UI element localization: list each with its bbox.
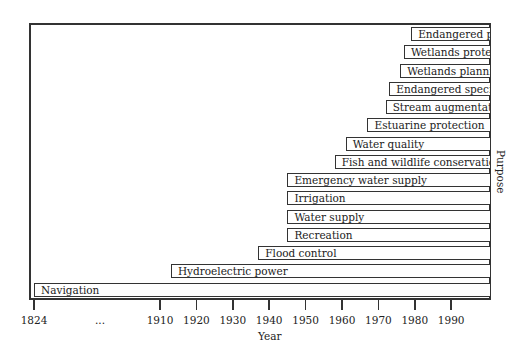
x-tick — [159, 300, 161, 310]
bar-endangered-species: Endangered species — [389, 82, 490, 96]
x-tick — [414, 300, 416, 310]
bar-wetlands-protect: Wetlands protect — [404, 45, 490, 59]
x-tick — [378, 300, 380, 310]
x-tick-label: 1824 — [21, 314, 48, 326]
bar-hydroelectric-power: Hydroelectric power — [171, 264, 490, 278]
x-tick-label: 1950 — [292, 314, 319, 326]
bar-fish-and-wildlife-conservation: Fish and wildlife conservation — [335, 155, 490, 169]
bar-stream-augmentation: Stream augmentation — [386, 100, 490, 114]
bar-endangered-plants: Endangered plants — [411, 27, 490, 41]
x-tick-label: 1990 — [438, 314, 465, 326]
x-tick — [33, 300, 35, 310]
bar-water-supply: Water supply — [287, 210, 490, 224]
x-tick — [268, 300, 270, 310]
y-axis-label: Purpose — [495, 150, 507, 194]
bar-recreation: Recreation — [287, 228, 490, 242]
x-tick-label: 1970 — [365, 314, 392, 326]
bar-navigation: Navigation — [34, 283, 490, 297]
x-tick — [450, 300, 452, 310]
x-tick — [232, 300, 234, 310]
bar-wetlands-planning: Wetlands planning — [400, 64, 490, 78]
bar-water-quality: Water quality — [346, 137, 490, 151]
bar-irrigation: Irrigation — [287, 191, 490, 205]
bar-estuarine-protection: Estuarine protection — [367, 118, 490, 132]
x-tick-label: 1910 — [147, 314, 174, 326]
x-tick — [305, 300, 307, 310]
x-tick-label: 1920 — [183, 314, 210, 326]
x-tick — [341, 300, 343, 310]
x-tick — [196, 300, 198, 310]
x-tick-label: 1930 — [219, 314, 246, 326]
x-tick-label: 1960 — [329, 314, 356, 326]
x-axis-label: Year — [258, 330, 282, 342]
x-tick-label: 1980 — [401, 314, 428, 326]
bar-flood-control: Flood control — [258, 246, 490, 260]
bar-emergency-water-supply: Emergency water supply — [287, 173, 490, 187]
x-tick-label: 1940 — [256, 314, 283, 326]
x-tick-label: ... — [95, 314, 105, 326]
